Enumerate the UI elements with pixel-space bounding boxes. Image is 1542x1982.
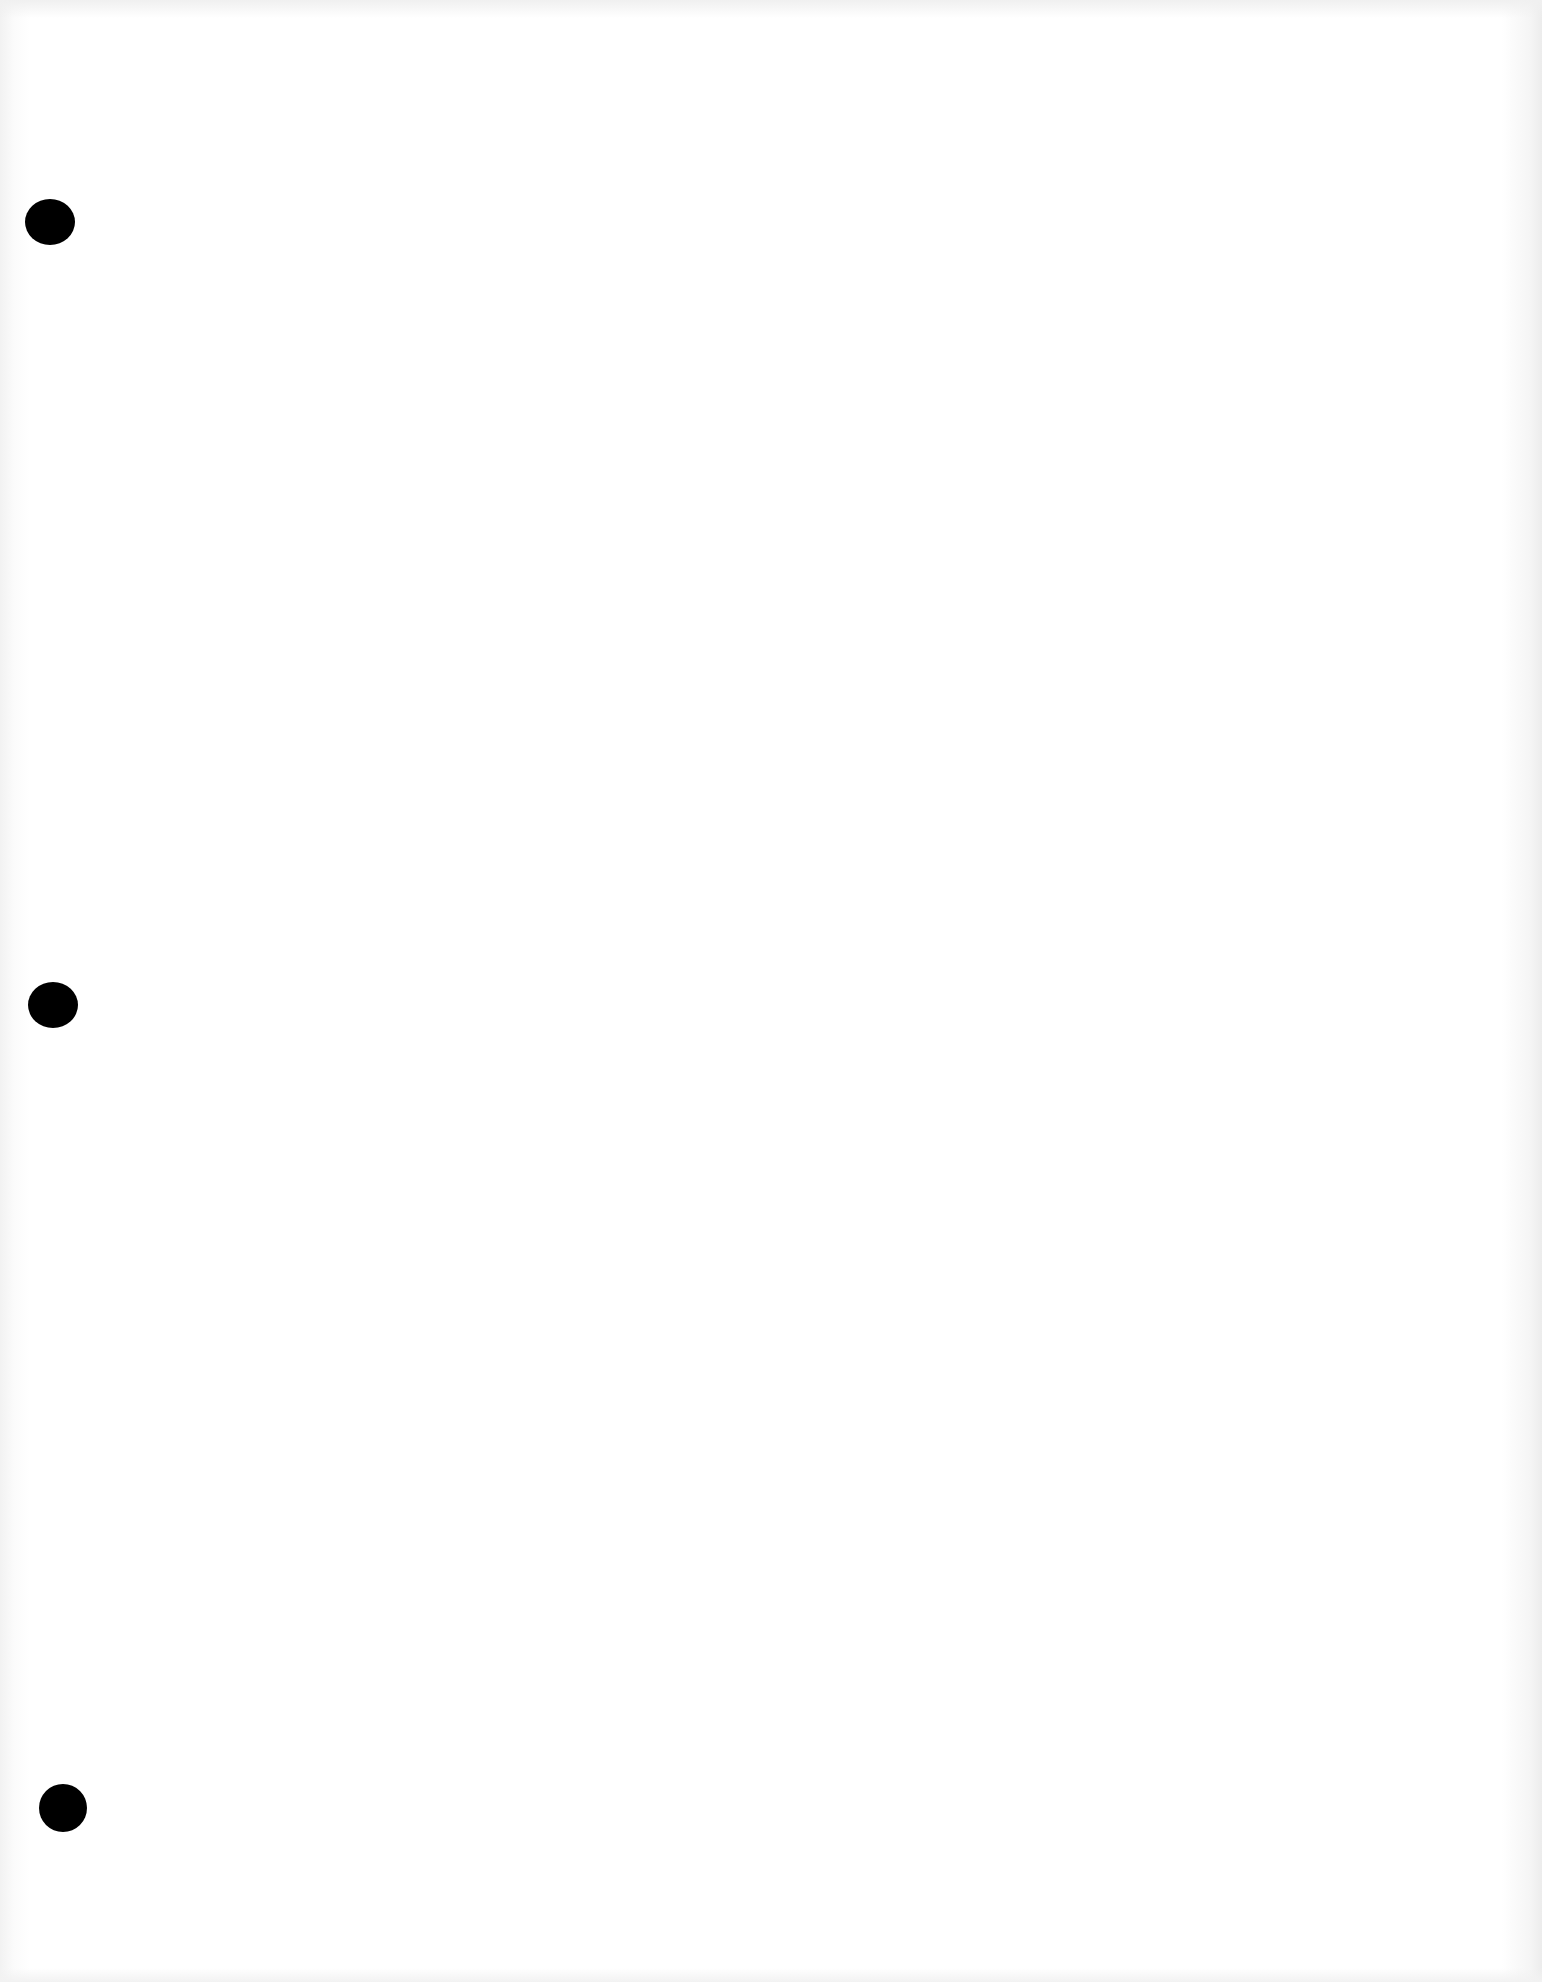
punch-hole-bottom <box>39 1784 87 1832</box>
blank-page <box>0 0 1542 1982</box>
punch-hole-top <box>25 199 75 245</box>
punch-hole-middle <box>28 982 78 1028</box>
